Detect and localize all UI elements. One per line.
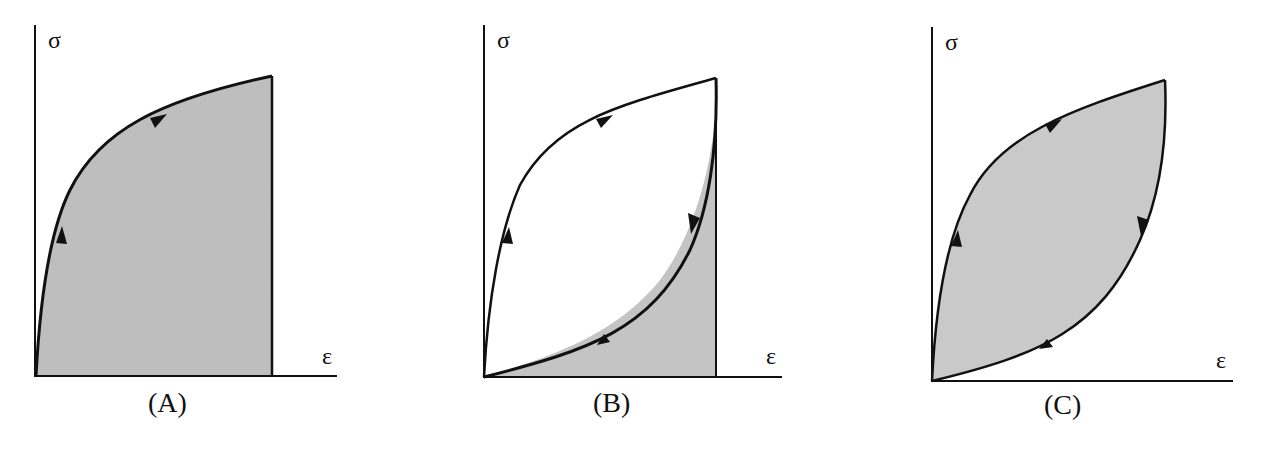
- panel-b: σ ε (B): [484, 25, 782, 418]
- y-axis-label-b: σ: [497, 27, 510, 53]
- x-axis-label-a: ε: [322, 343, 332, 369]
- caption-c: (C): [1044, 389, 1081, 420]
- caption-b: (B): [593, 387, 630, 418]
- x-axis-label-c: ε: [1216, 347, 1226, 373]
- panel-a: σ ε (A): [35, 25, 337, 418]
- x-axis-label-b: ε: [766, 343, 776, 369]
- y-axis-label-a: σ: [48, 27, 61, 53]
- stress-strain-figure: σ ε (A) σ ε (B) σ ε (C): [0, 0, 1267, 454]
- panel-c: σ ε (C): [932, 27, 1233, 420]
- y-axis-label-c: σ: [945, 29, 958, 55]
- caption-a: (A): [148, 387, 187, 418]
- shaded-area-b: [484, 110, 716, 377]
